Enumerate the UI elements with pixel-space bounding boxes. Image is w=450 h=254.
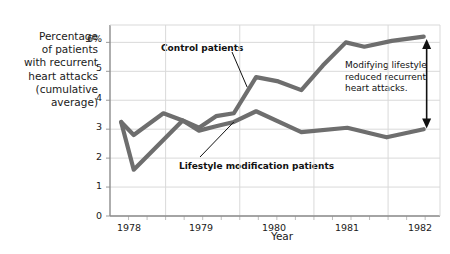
plot-canvas	[0, 0, 450, 254]
axis-ticks	[106, 42, 425, 220]
series-line-lifestyle-modification-patients	[121, 111, 424, 169]
arrow-head-top	[422, 39, 431, 49]
difference-arrow	[422, 39, 431, 129]
chart-figure: Percentage of patients with recurrent he…	[0, 0, 450, 254]
data-series-group	[121, 37, 424, 170]
